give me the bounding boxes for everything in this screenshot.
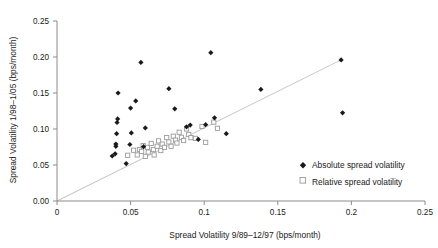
data-point-diamond <box>127 142 132 147</box>
data-point-diamond <box>129 130 134 135</box>
y-tick-label: 0.20 <box>33 53 49 62</box>
reference-line <box>57 60 341 201</box>
legend-label-relative: Relative spread volatility <box>312 177 403 187</box>
y-tick-label: 0.10 <box>33 125 49 134</box>
data-point-square <box>167 140 171 144</box>
x-tick-label: 0.15 <box>270 208 286 217</box>
data-point-square <box>189 136 193 140</box>
data-point-diamond <box>172 106 177 111</box>
data-point-square <box>162 145 166 149</box>
legend-label-absolute: Absolute spread volatility <box>312 160 405 170</box>
data-point-square <box>212 120 216 124</box>
data-point-square <box>175 141 179 145</box>
legend-filled-diamond-icon <box>300 162 306 168</box>
data-point-square <box>155 144 159 148</box>
x-tick-label: 0.2 <box>346 208 358 217</box>
x-axis-ticks: 00.050.10.150.20.25 <box>55 201 434 217</box>
data-point-square <box>152 153 156 157</box>
y-tick-label: 0.25 <box>33 17 49 26</box>
data-point-square <box>177 130 181 134</box>
data-point-diamond <box>128 106 133 111</box>
data-point-diamond <box>340 110 345 115</box>
data-point-square <box>149 141 153 145</box>
x-tick-label: 0 <box>55 208 60 217</box>
series-absolute-spread-volatility <box>110 50 346 166</box>
data-point-diamond <box>338 57 343 62</box>
data-point-diamond <box>115 90 120 95</box>
data-point-diamond <box>115 116 120 121</box>
data-point-square <box>181 138 185 142</box>
x-axis-label: Spread Volatility 9/89–12/97 (bps/month) <box>169 230 321 240</box>
y-axis-label: Spread Volatility 1/98–1/05 (bps/month) <box>8 36 18 183</box>
chart-legend: Absolute spread volatility Relative spre… <box>300 160 406 187</box>
data-point-square <box>146 150 150 154</box>
x-tick-label: 0.1 <box>199 208 211 217</box>
data-point-square <box>140 149 144 153</box>
data-point-square <box>215 126 219 130</box>
data-point-diamond <box>133 98 138 103</box>
data-point-square <box>135 153 139 157</box>
data-point-square <box>126 153 130 157</box>
x-tick-label: 0.05 <box>123 208 139 217</box>
x-tick-label: 0.25 <box>417 208 433 217</box>
data-point-square <box>169 144 173 148</box>
data-point-diamond <box>208 50 213 55</box>
data-point-square <box>165 136 169 140</box>
data-point-diamond <box>114 131 119 136</box>
data-point-square <box>143 154 147 158</box>
data-point-diamond <box>166 86 171 91</box>
y-tick-label: 0.15 <box>33 89 49 98</box>
chart-page: 00.050.10.150.20.25 0.000.050.100.150.20… <box>0 0 438 248</box>
y-tick-label: 0.05 <box>33 161 49 170</box>
data-point-diamond <box>224 131 229 136</box>
data-point-diamond <box>258 87 263 92</box>
legend-open-square-icon <box>300 178 306 184</box>
data-point-diamond <box>143 125 148 130</box>
diagonal-reference-line <box>57 60 341 201</box>
data-point-square <box>204 140 208 144</box>
scatter-plot: 00.050.10.150.20.25 0.000.050.100.150.20… <box>0 0 438 248</box>
data-point-diamond <box>138 60 143 65</box>
data-point-square <box>131 148 135 152</box>
y-axis-ticks: 0.000.050.100.150.200.25 <box>33 17 57 206</box>
y-tick-label: 0.00 <box>33 197 49 206</box>
